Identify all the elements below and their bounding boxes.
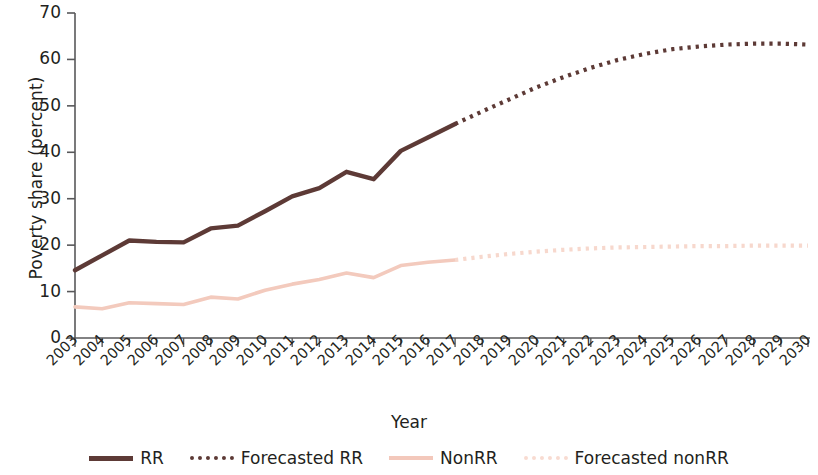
y-tick-label: 20 <box>19 236 61 253</box>
chart-legend: RRForecasted RRNonRRForecasted nonRR <box>0 448 818 468</box>
y-tick-label: 0 <box>19 329 61 346</box>
series-line <box>455 246 808 260</box>
legend-swatch-icon <box>389 456 433 460</box>
legend-item[interactable]: RR <box>89 448 164 468</box>
legend-label: NonRR <box>440 448 498 468</box>
legend-swatch-icon <box>89 456 133 461</box>
legend-label: Forecasted RR <box>241 448 363 468</box>
series-line <box>75 124 455 270</box>
legend-item[interactable]: Forecasted nonRR <box>524 448 729 468</box>
series-line <box>455 44 808 124</box>
y-tick-label: 30 <box>19 190 61 207</box>
plot-area <box>0 0 818 475</box>
axis-lines <box>75 13 810 338</box>
y-axis-title: Poverty share (percent) <box>26 58 46 298</box>
legend-swatch-icon <box>190 456 234 460</box>
y-axis-ticks <box>67 13 75 338</box>
data-series-layer <box>75 44 808 309</box>
legend-label: RR <box>140 448 164 468</box>
y-tick-label: 60 <box>19 50 61 67</box>
legend-item[interactable]: NonRR <box>389 448 498 468</box>
y-tick-label: 70 <box>19 4 61 21</box>
legend-label: Forecasted nonRR <box>575 448 729 468</box>
y-tick-label: 10 <box>19 283 61 300</box>
series-line <box>75 260 455 309</box>
x-axis-title: Year <box>0 412 818 432</box>
y-tick-label: 50 <box>19 97 61 114</box>
poverty-share-line-chart: Poverty share (percent) 010203040506070 … <box>0 0 818 475</box>
legend-swatch-icon <box>524 456 568 460</box>
legend-item[interactable]: Forecasted RR <box>190 448 363 468</box>
y-tick-label: 40 <box>19 143 61 160</box>
